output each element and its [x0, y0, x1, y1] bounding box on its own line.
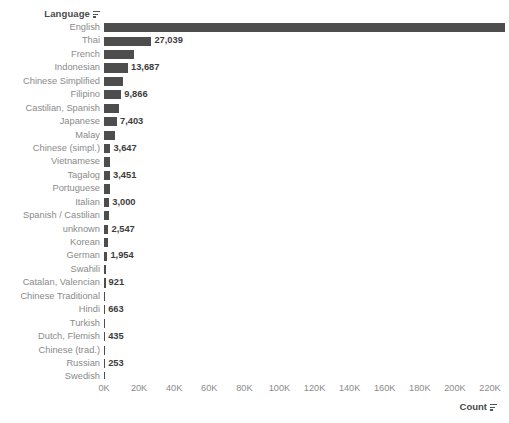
- bar-wrap: [104, 263, 106, 276]
- bar-row[interactable]: Russian253: [0, 357, 509, 370]
- sort-descending-icon[interactable]: [490, 404, 497, 411]
- bar[interactable]: [104, 90, 121, 99]
- x-axis-tick: 140K: [339, 381, 360, 395]
- bar-value-label: 3,000: [109, 196, 135, 209]
- dimension-header-label: Language: [44, 8, 90, 19]
- bar-wrap: [104, 48, 134, 61]
- bar-row[interactable]: Dutch, Flemish435: [0, 330, 509, 343]
- bar-row[interactable]: Italian3,000: [0, 196, 509, 209]
- bar-row[interactable]: Filipino9,866: [0, 88, 509, 101]
- bar-row-label: unknown: [0, 223, 100, 236]
- bar-row-label: Swedish: [0, 370, 100, 379]
- x-axis-tick: 100K: [269, 381, 290, 395]
- bar-row[interactable]: Swedish: [0, 370, 509, 379]
- bar-row[interactable]: unknown2,547: [0, 223, 509, 236]
- bar-row[interactable]: Portuguese: [0, 182, 509, 195]
- bar[interactable]: [104, 292, 105, 301]
- x-axis-tick: 60K: [201, 381, 217, 395]
- bar-row[interactable]: English: [0, 21, 509, 34]
- bar[interactable]: [104, 372, 105, 379]
- x-axis-tick: 40K: [166, 381, 182, 395]
- bar[interactable]: [104, 50, 134, 59]
- bar-row[interactable]: Catalan, Valencian921: [0, 276, 509, 289]
- x-axis-tick: 80K: [236, 381, 252, 395]
- bar-row-label: French: [0, 48, 100, 61]
- bar-row-label: English: [0, 21, 100, 34]
- bar-row[interactable]: Chinese Simplified: [0, 75, 509, 88]
- bar[interactable]: [104, 63, 128, 72]
- bar-row[interactable]: Korean: [0, 236, 509, 249]
- bar-row[interactable]: Chinese (trad.): [0, 344, 509, 357]
- bar-row-label: Catalan, Valencian: [0, 276, 100, 289]
- bar-value-label: 2,547: [108, 223, 134, 236]
- bar-row-label: Thai: [0, 34, 100, 47]
- bar-wrap: [104, 61, 128, 74]
- bar-row[interactable]: Castilian, Spanish: [0, 102, 509, 115]
- bar-value-label: 7,403: [117, 115, 143, 128]
- x-axis-tick: 0K: [98, 381, 109, 395]
- bar-row[interactable]: Swahili: [0, 263, 509, 276]
- bar[interactable]: [104, 131, 115, 140]
- bar-row[interactable]: French: [0, 48, 509, 61]
- bar-row[interactable]: Tagalog3,451: [0, 169, 509, 182]
- bar-row-label: Malay: [0, 129, 100, 142]
- bar-wrap: [104, 88, 121, 101]
- bar[interactable]: [104, 104, 119, 113]
- bar-row[interactable]: Hindi663: [0, 303, 509, 316]
- bar-chart: Language EnglishThai27,039FrenchIndonesi…: [0, 0, 509, 423]
- bar-wrap: [104, 209, 109, 222]
- bar-row[interactable]: Spanish / Castilian: [0, 209, 509, 222]
- bar-wrap: [104, 370, 105, 379]
- bar-row-label: Korean: [0, 236, 100, 249]
- bar-value-label: 435: [105, 330, 124, 343]
- bar-row-label: Italian: [0, 196, 100, 209]
- bar-row-label: Indonesian: [0, 61, 100, 74]
- bar-row[interactable]: Chinese (simpl.)3,647: [0, 142, 509, 155]
- bar-row[interactable]: Malay: [0, 129, 509, 142]
- bar[interactable]: [104, 117, 117, 126]
- bar-value-label: 13,687: [128, 61, 159, 74]
- bar-row[interactable]: Japanese7,403: [0, 115, 509, 128]
- bar[interactable]: [104, 319, 105, 328]
- bar[interactable]: [104, 23, 505, 32]
- bar-row[interactable]: Indonesian13,687: [0, 61, 509, 74]
- bar-row[interactable]: German1,954: [0, 249, 509, 262]
- dimension-header[interactable]: Language: [0, 8, 100, 19]
- bar[interactable]: [104, 77, 123, 86]
- bar[interactable]: [104, 157, 110, 166]
- bar-value-label: 253: [105, 357, 124, 370]
- bar-wrap: [104, 21, 505, 34]
- sort-descending-icon[interactable]: [93, 11, 100, 18]
- bar-wrap: [104, 182, 110, 195]
- measure-header[interactable]: Count: [460, 401, 497, 412]
- bar-row-label: Portuguese: [0, 182, 100, 195]
- bar-row-label: Filipino: [0, 88, 100, 101]
- measure-header-label: Count: [460, 401, 487, 412]
- bar-row-label: Turkish: [0, 317, 100, 330]
- bar-row[interactable]: Chinese Traditional: [0, 290, 509, 303]
- bar-row-label: Swahili: [0, 263, 100, 276]
- bar[interactable]: [104, 184, 110, 193]
- bar-wrap: [104, 34, 151, 47]
- x-axis: 0K20K40K60K80K100K120K140K160K180K200K22…: [0, 381, 509, 395]
- bar[interactable]: [104, 265, 106, 274]
- bar[interactable]: [104, 37, 151, 46]
- bar-row[interactable]: Turkish: [0, 317, 509, 330]
- bar[interactable]: [104, 346, 105, 355]
- bar-row[interactable]: Thai27,039: [0, 34, 509, 47]
- x-axis-tick: 220K: [479, 381, 500, 395]
- bar-row-label: Spanish / Castilian: [0, 209, 100, 222]
- bar-value-label: 1,954: [107, 249, 133, 262]
- x-axis-tick: 120K: [304, 381, 325, 395]
- bar[interactable]: [104, 238, 108, 247]
- x-axis-tick: 160K: [374, 381, 395, 395]
- bar-row-label: German: [0, 249, 100, 262]
- bar-row-label: Japanese: [0, 115, 100, 128]
- bar-row-label: Chinese (simpl.): [0, 142, 100, 155]
- bar-row-label: Russian: [0, 357, 100, 370]
- bar-wrap: [104, 155, 110, 168]
- bar-row[interactable]: Vietnamese: [0, 155, 509, 168]
- bar-row-label: Chinese Simplified: [0, 75, 100, 88]
- bar[interactable]: [104, 211, 109, 220]
- bar-row-label: Hindi: [0, 303, 100, 316]
